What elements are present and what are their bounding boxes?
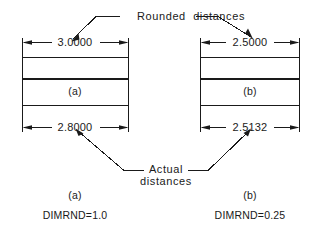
drawing-geometry (0, 0, 319, 231)
arrow-a-bot-right (119, 125, 129, 130)
figure-canvas: Rounded distances 3.0000 2.5000 (a) (b) … (0, 0, 319, 231)
arrow-b-top-left (201, 40, 211, 45)
arrow-a-top-right (119, 40, 129, 45)
arrow-b-bot-left (201, 125, 211, 130)
part-label-a: (a) (68, 86, 82, 97)
dimrnd-setting-b: DIMRND=0.25 (215, 210, 286, 221)
part-label-b: (b) (243, 86, 257, 97)
dimension-value-a-actual: 2.8000 (58, 122, 93, 133)
rounded-distances-note: Rounded distances (137, 11, 245, 22)
dimension-value-b-rounded: 2.5000 (233, 37, 268, 48)
arrow-b-bot-right (290, 125, 300, 130)
caption-b: (b) (243, 190, 257, 201)
arrow-a-bot-left (23, 125, 33, 130)
dimension-value-b-actual: 2.5132 (233, 122, 268, 133)
arrow-b-top-right (290, 40, 300, 45)
dimension-value-a-rounded: 3.0000 (58, 37, 93, 48)
dimrnd-setting-a: DIMRND=1.0 (43, 210, 108, 221)
actual-distances-note-line1: Actual (149, 164, 183, 175)
leader-bottom-left-slant (78, 131, 124, 171)
caption-a: (a) (68, 190, 82, 201)
leader-bottom-right-slant (208, 131, 249, 171)
actual-distances-note-line2: distances (140, 176, 192, 187)
arrow-a-top-left (23, 40, 33, 45)
